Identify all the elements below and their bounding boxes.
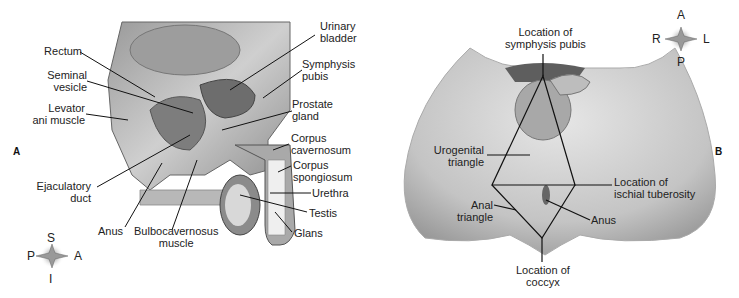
compass-a-inferior: I (49, 272, 52, 286)
compass-b-anterior: A (677, 8, 685, 22)
compass-a-anterior: A (74, 249, 82, 263)
compass-a-superior: S (47, 231, 55, 245)
label-urethra: Urethra (312, 187, 349, 199)
label-location-coccyx: Location of coccyx (516, 264, 570, 288)
label-location-symphysis-pubis: Location of symphysis pubis (505, 26, 586, 50)
label-urinary-bladder: Urinary bladder (320, 20, 357, 44)
compass-b: A R L P (651, 15, 711, 75)
label-anal-triangle: Anal triangle (457, 199, 493, 223)
label-prostate-gland: Prostate gland (292, 98, 333, 122)
label-anus-b: Anus (591, 214, 616, 226)
label-urogenital-triangle: Urogenital triangle (434, 144, 484, 168)
sagittal-section-illustration (108, 22, 295, 245)
label-testis: Testis (309, 207, 337, 219)
panel-a-letter: A (13, 146, 20, 157)
compass-b-right: R (652, 32, 661, 46)
label-bulbocavernosus-muscle: Bulbocavernosus muscle (134, 225, 218, 249)
label-corpus-cavernosum: Corpus cavernosum (291, 132, 351, 156)
label-rectum: Rectum (44, 45, 82, 57)
compass-a: S P A I (22, 232, 82, 292)
label-ejaculatory-duct: Ejaculatory duct (37, 180, 91, 204)
panel-b-letter: B (715, 146, 722, 157)
compass-b-posterior: P (677, 55, 685, 69)
compass-a-posterior: P (27, 249, 35, 263)
label-glans: Glans (294, 227, 323, 239)
label-seminal-vesicle: Seminal vesicle (47, 69, 87, 93)
label-levator-ani-muscle: Levator ani muscle (32, 102, 85, 126)
label-corpus-spongiosum: Corpus spongiosum (293, 159, 352, 183)
compass-b-left: L (703, 32, 710, 46)
label-location-ischial-tuberosity: Location of ischial tuberosity (614, 176, 695, 200)
illustration-canvas (0, 0, 739, 298)
label-anus-a: Anus (98, 225, 123, 237)
label-symphysis-pubis: Symphysis pubis (302, 58, 355, 82)
